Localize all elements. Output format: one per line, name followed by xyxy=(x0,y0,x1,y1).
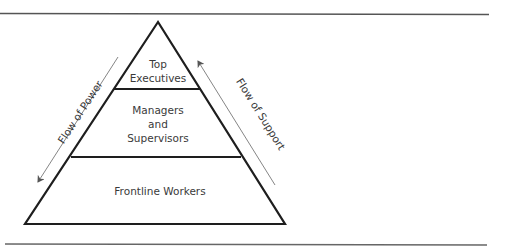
pyramid-figure: Top Executives Managers and Supervisors … xyxy=(0,0,508,249)
level-frontline-label: Frontline Workers xyxy=(95,184,225,198)
level-managers-label: Managers and Supervisors xyxy=(108,103,208,145)
label-line: Executives xyxy=(118,71,198,85)
level-top-executives-label: Top Executives xyxy=(118,57,198,85)
bottom-rule xyxy=(5,244,487,245)
top-rule xyxy=(0,14,489,15)
label-line: Top xyxy=(118,57,198,71)
label-line: Supervisors xyxy=(108,131,208,145)
label-line: Managers xyxy=(108,103,208,117)
label-line: Frontline Workers xyxy=(95,184,225,198)
label-line: and xyxy=(108,117,208,131)
